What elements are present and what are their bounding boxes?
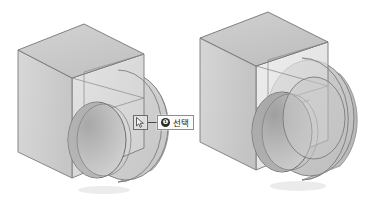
- boss-inner-face: [283, 77, 345, 159]
- ground-shadow: [270, 181, 326, 191]
- model-3d-step-2[interactable]: [190, 0, 380, 214]
- panel-step-1: ❶ 선택: [0, 0, 190, 214]
- arrow-cursor-icon: [136, 117, 145, 128]
- leader-line: [148, 122, 157, 123]
- callout-step-1[interactable]: ❶ 선택: [133, 114, 194, 130]
- panel-step-2: ❷ Shift + 선택: [190, 0, 380, 214]
- callout-text-1: 선택: [173, 116, 189, 128]
- figure-stage: ❶ 선택: [0, 0, 380, 214]
- cursor-indicator-box: [133, 115, 148, 130]
- step-badge-1: ❶: [161, 118, 170, 127]
- ground-shadow: [78, 186, 130, 194]
- callout-label-1: ❶ 선택: [157, 115, 194, 130]
- model-3d-step-1[interactable]: [0, 0, 190, 214]
